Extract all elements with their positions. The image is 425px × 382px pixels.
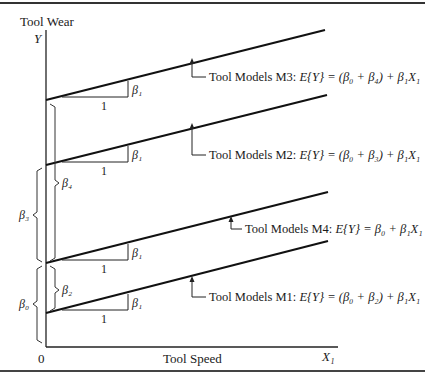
brace-beta4: [50, 104, 59, 261]
callout-arrow-m1: [190, 276, 207, 297]
callout-m3-equation: E{Y} = (β₀ + β₄) + β₁X₁: [299, 70, 420, 84]
callout-m4: Tool Models M4: E{Y} = β₀ + β₁X₁: [245, 223, 423, 236]
callout-m1-equation: E{Y} = (β₀ + β₂) + β₁X₁: [299, 290, 420, 304]
slope-run-label-m3: 1: [101, 100, 107, 112]
slope-rise-label-m3: β₁: [132, 84, 142, 96]
slope-run-label-m1: 1: [101, 313, 107, 325]
callout-m1-label: Tool Models M1:: [209, 290, 296, 304]
brace-label-beta0: β₀: [19, 298, 29, 310]
callout-m3-label: Tool Models M3:: [209, 70, 296, 84]
slope-rise-label-m4: β₁: [132, 247, 142, 259]
figure-frame: Tool Wear Y 0 Tool Speed X₁ β₁ 1 β₁ 1 β₁…: [0, 0, 425, 382]
callout-m2-label: Tool Models M2:: [209, 148, 296, 162]
brace-beta3: [33, 168, 42, 262]
x-axis-symbol: X₁: [322, 350, 334, 363]
brace-beta2: [50, 266, 59, 311]
callout-m2: Tool Models M2: E{Y} = (β₀ + β₃) + β₁X₁: [209, 149, 420, 162]
diagram-canvas: [0, 0, 425, 382]
callout-m3: Tool Models M3: E{Y} = (β₀ + β₄) + β₁X₁: [209, 71, 420, 84]
slope-run-label-m4: 1: [101, 263, 107, 275]
x-axis-title: Tool Speed: [163, 352, 222, 365]
callout-m4-label: Tool Models M4:: [245, 222, 332, 236]
brace-label-beta2: β₂: [62, 284, 72, 296]
y-axis-symbol: Y: [34, 32, 41, 45]
callout-m4-equation: E{Y} = β₀ + β₁X₁: [335, 222, 422, 236]
brace-label-beta3: β₃: [19, 209, 29, 221]
brace-label-beta4: β₄: [62, 177, 72, 189]
y-axis-title: Tool Wear: [20, 15, 74, 28]
callout-m2-equation: E{Y} = (β₀ + β₃) + β₁X₁: [299, 148, 420, 162]
slope-run-label-m2: 1: [101, 165, 107, 177]
slope-rise-label-m1: β₁: [132, 297, 142, 309]
callout-arrow-m4: [229, 216, 243, 229]
line-m3: [46, 30, 325, 100]
slope-rise-label-m2: β₁: [132, 149, 142, 161]
origin-label: 0: [38, 352, 45, 365]
callout-m1: Tool Models M1: E{Y} = (β₀ + β₂) + β₁X₁: [209, 291, 420, 304]
brace-beta0: [33, 266, 42, 343]
